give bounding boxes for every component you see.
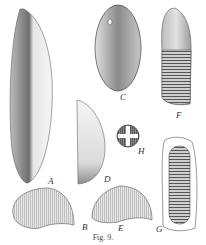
label-c: C	[120, 92, 126, 102]
label-e: E	[118, 223, 124, 233]
panel-c	[95, 5, 141, 91]
figure-caption: Fig. 9.	[0, 233, 206, 242]
panel-b	[13, 188, 74, 229]
figure-plate	[0, 0, 206, 245]
label-b: B	[82, 222, 88, 232]
label-h: H	[138, 146, 145, 156]
label-f: F	[176, 110, 182, 120]
panel-a	[10, 9, 52, 183]
panel-d	[77, 100, 105, 184]
panel-h	[117, 125, 139, 147]
panel-e	[92, 186, 152, 223]
panel-f	[162, 8, 191, 105]
label-d: D	[104, 174, 111, 184]
panel-g	[162, 137, 197, 231]
label-a: A	[48, 176, 54, 186]
